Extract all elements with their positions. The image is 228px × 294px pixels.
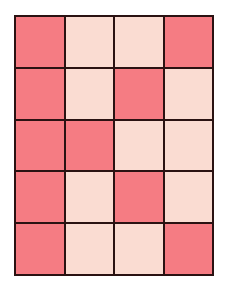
grid-cell-r4-c1-light xyxy=(65,223,115,275)
grid-cell-r2-c0-dark xyxy=(15,120,65,172)
grid-cell-r1-c2-dark xyxy=(114,68,164,120)
grid-cell-r1-c0-dark xyxy=(15,68,65,120)
grid-cell-r1-c3-light xyxy=(164,68,214,120)
grid-cell-r0-c1-light xyxy=(65,16,115,68)
grid-cell-r0-c0-dark xyxy=(15,16,65,68)
grid-cell-r3-c1-light xyxy=(65,171,115,223)
grid-cell-r2-c3-light xyxy=(164,120,214,172)
grid-cell-r0-c2-light xyxy=(114,16,164,68)
grid-cell-r0-c3-dark xyxy=(164,16,214,68)
grid-cell-r3-c0-dark xyxy=(15,171,65,223)
grid-cell-r2-c1-dark xyxy=(65,120,115,172)
grid-cell-r4-c3-dark xyxy=(164,223,214,275)
grid-cell-r2-c2-light xyxy=(114,120,164,172)
grid-cell-r3-c2-dark xyxy=(114,171,164,223)
grid-cell-r4-c0-dark xyxy=(15,223,65,275)
grid-cell-r1-c1-light xyxy=(65,68,115,120)
color-grid xyxy=(14,15,214,276)
grid-cell-r4-c2-light xyxy=(114,223,164,275)
grid-cell-r3-c3-light xyxy=(164,171,214,223)
